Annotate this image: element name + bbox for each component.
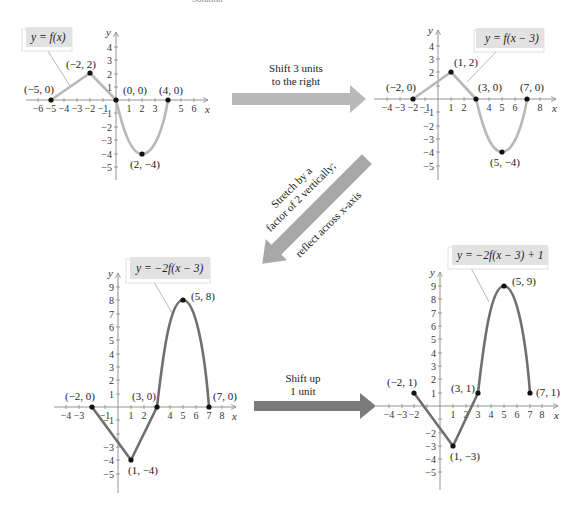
svg-text:6: 6 [515, 409, 520, 420]
svg-text:−3: −3 [423, 134, 434, 145]
svg-text:1: 1 [127, 103, 132, 114]
x-axis-label: x [553, 409, 559, 421]
svg-text:1: 1 [431, 388, 436, 399]
svg-text:−3: −3 [72, 103, 83, 114]
svg-text:−2: −2 [85, 103, 96, 114]
svg-text:−4: −4 [59, 103, 70, 114]
svg-text:(3, 0): (3, 0) [132, 390, 156, 403]
function-label-f: y = f(x) [30, 31, 66, 44]
svg-text:−5: −5 [101, 162, 112, 173]
svg-text:−4: −4 [101, 149, 112, 160]
graph-final: −4 −3 −2 1 2 3 4 5 6 7 8 9 8 7 6 5 4 3 2… [376, 245, 560, 490]
svg-text:9: 9 [431, 281, 436, 292]
x-tick-labels: −4 −3 −2 −1 1 2 4 5 6 8 [382, 102, 543, 113]
svg-text:−2: −2 [408, 102, 419, 113]
svg-text:(−2, 1): (−2, 1) [387, 376, 417, 389]
svg-text:4: 4 [107, 42, 112, 53]
x-axis-label: x [231, 410, 237, 422]
graph-f: −6 −5 −4 −3 −2 −1 1 2 3 5 6 4 3 2 1 −1 −… [22, 26, 210, 180]
svg-text:7: 7 [207, 410, 212, 421]
arrow-shift-up: Shift up 1 unit [254, 372, 376, 419]
svg-text:6: 6 [109, 322, 114, 333]
svg-text:2: 2 [107, 69, 112, 80]
svg-text:Shift 3 units: Shift 3 units [269, 62, 323, 74]
svg-text:3: 3 [107, 55, 112, 66]
svg-text:(3, 0): (3, 0) [478, 81, 502, 94]
svg-text:(5, −4): (5, −4) [490, 156, 520, 169]
svg-text:−4: −4 [423, 147, 434, 158]
svg-text:(−2, 0): (−2, 0) [386, 81, 416, 94]
svg-text:(5, 8): (5, 8) [191, 290, 215, 303]
svg-text:2: 2 [109, 375, 114, 386]
svg-text:2: 2 [429, 67, 434, 78]
svg-text:(7, 0): (7, 0) [520, 81, 544, 94]
svg-text:3: 3 [153, 103, 158, 114]
svg-text:−3: −3 [395, 102, 406, 113]
y-tick-labels: 9 8 7 6 5 4 3 2 1 −2 −3 −4 −5 [425, 281, 436, 478]
svg-text:7: 7 [431, 308, 436, 319]
svg-text:(1, 2): (1, 2) [454, 56, 478, 69]
svg-text:−2: −2 [101, 122, 112, 133]
graph-stretched-reflected: −4 −3 −1 1 2 4 5 6 7 8 9 8 7 6 5 4 3 2 1… [54, 257, 237, 493]
svg-text:3: 3 [476, 409, 481, 420]
svg-text:−2: −2 [423, 121, 434, 132]
svg-text:(1, −3): (1, −3) [450, 450, 480, 463]
svg-text:6: 6 [431, 321, 436, 332]
transformation-diagram: −6 −5 −4 −3 −2 −1 1 2 3 5 6 4 3 2 1 −1 −… [0, 0, 586, 513]
svg-text:1: 1 [449, 102, 454, 113]
svg-text:−3: −3 [74, 410, 85, 421]
svg-text:−3: −3 [101, 135, 112, 146]
svg-text:(4, 0): (4, 0) [159, 84, 183, 97]
svg-text:8: 8 [109, 295, 114, 306]
svg-text:8: 8 [431, 294, 436, 305]
svg-text:4: 4 [109, 349, 114, 360]
x-axis-label: x [204, 103, 210, 115]
svg-text:−3: −3 [103, 442, 114, 453]
svg-text:4: 4 [429, 41, 434, 52]
x-tick-labels: −6 −5 −4 −3 −2 −1 1 2 3 5 6 [33, 103, 197, 114]
svg-text:−6: −6 [33, 103, 44, 114]
svg-text:5: 5 [500, 102, 505, 113]
svg-text:3: 3 [431, 361, 436, 372]
svg-text:1 unit: 1 unit [290, 385, 315, 397]
svg-text:5: 5 [431, 334, 436, 345]
svg-text:(1, −4): (1, −4) [128, 464, 158, 477]
svg-text:9: 9 [109, 282, 114, 293]
x-axis-label: x [551, 102, 557, 114]
svg-text:−3: −3 [397, 409, 408, 420]
svg-text:6: 6 [513, 102, 518, 113]
svg-text:4: 4 [431, 348, 436, 359]
svg-text:to the right: to the right [272, 75, 320, 87]
svg-text:(5, 9): (5, 9) [512, 275, 536, 288]
function-label-final: y = −2f(x − 3) + 1 [456, 249, 544, 262]
svg-text:3: 3 [109, 362, 114, 373]
svg-text:−5: −5 [46, 103, 57, 114]
svg-text:(7, 1): (7, 1) [536, 386, 560, 399]
svg-text:4: 4 [168, 410, 173, 421]
x-tick-labels: −4 −3 −2 1 2 3 4 5 6 7 8 [384, 409, 545, 420]
svg-text:−4: −4 [384, 409, 395, 420]
y-tick-labels: 4 3 2 −1 −2 −3 −4 −5 [423, 41, 434, 172]
y-axis-label: y [107, 267, 113, 279]
svg-text:(2, −4): (2, −4) [130, 158, 160, 171]
svg-text:(−2, 0): (−2, 0) [65, 390, 95, 403]
y-axis-label: y [429, 266, 435, 278]
svg-text:4: 4 [489, 409, 494, 420]
svg-text:2: 2 [140, 103, 145, 114]
svg-text:2: 2 [431, 374, 436, 385]
y-tick-labels: 9 8 7 6 5 4 3 2 1 −1 −3 −4 −5 [103, 282, 114, 480]
svg-text:8: 8 [540, 409, 545, 420]
arrow-shift-right: Shift 3 units to the right [232, 62, 366, 113]
point-labels: (−2, 1) (1, −3) (3, 1) (5, 9) (7, 1) [387, 275, 560, 463]
svg-text:5: 5 [502, 409, 507, 420]
y-tick-labels: 4 3 2 1 −1 −2 −3 −4 −5 [101, 42, 112, 173]
function-label-f-shifted: y = f(x − 3) [484, 32, 539, 45]
y-axis-label: y [427, 24, 433, 36]
svg-text:6: 6 [194, 410, 199, 421]
svg-text:−5: −5 [423, 161, 434, 172]
svg-text:3: 3 [429, 54, 434, 65]
svg-text:2: 2 [462, 102, 467, 113]
svg-text:1: 1 [451, 409, 456, 420]
svg-text:1: 1 [129, 410, 134, 421]
svg-text:1: 1 [109, 389, 114, 400]
